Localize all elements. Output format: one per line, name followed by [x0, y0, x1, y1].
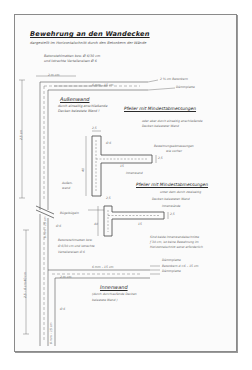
dimension-left-middle: 6 mm – 15 cm [44, 217, 47, 238]
left-note-line1: Betonstahlmatten bzw. [58, 239, 93, 242]
outer-wall-line2: Decken belastete Wand ! [58, 110, 100, 113]
pillar-2-line1: unter dem durch zweiseitig [160, 191, 201, 194]
pillar-1-height: 40 [82, 168, 85, 172]
left-note-line2: Ø 6/30 cm und lotrechte [58, 245, 95, 248]
dimension-top-inner: 6 mm – 15 cm [92, 84, 113, 87]
pillar-2-line2: Decken belasteten Wand [152, 198, 190, 201]
document-subtitle: dargestellt im Horizontalschnitt durch d… [30, 42, 146, 46]
inner-wall-heading: Innenwand [100, 285, 128, 290]
dimension-left-lower: 2,5 – 6 cm 40 cm [24, 272, 27, 298]
pillar-2-height: 40 [94, 223, 98, 226]
pillar-1-gap: 2,5 [158, 157, 163, 160]
pillar-1-rebar-note-2: wie vorher [166, 150, 182, 153]
note-daemmplatte-bottom-1: Dämmplatte [162, 259, 181, 262]
pillar-2-gap: 2,5 [170, 213, 175, 216]
note-daemmplatte-top: Dämmplatte [176, 86, 195, 89]
outer-wall-small-1: Außen- [62, 182, 73, 185]
pillar-1-heading: Pfeiler mit Mindestabmessungen [124, 107, 196, 111]
document-title: Bewehrung an den Wandecken [30, 31, 150, 38]
dimension-top-width: 2 m cm [48, 74, 59, 77]
pillar-1-inner-wall: Innenwand [126, 172, 143, 175]
pillar-1-rebar-note-1: Bewehrungsabmessungen [154, 145, 194, 148]
top-note-line2: und lotrechte Verteilereisen Ø 6 [44, 60, 97, 63]
pillar-1-arm: 15 [120, 165, 124, 168]
rebar-label-2: Ø 6 [56, 225, 61, 228]
pillar-2-note-3: Horizontalschnitt sonst erforderlich [150, 246, 203, 249]
pillar-1-width: 2,5 [92, 127, 97, 130]
note-betonkern-bottom: Betonkern d.=6 – 15 cm [162, 265, 199, 268]
pillar-1-line2: Decken belasteter Wand [142, 125, 179, 128]
dimension-left-upper: 2,5 cm [20, 130, 23, 140]
pillar-2-heading: Pfeiler mit Mindestabmessungen [136, 183, 208, 187]
pillar-2-note-1: Sind beide Innenwandabschnitte [150, 236, 199, 239]
note-daemmplatte-bottom-2: Dämmplatte [162, 270, 181, 273]
dimension-inner-top: 2 m cm [60, 276, 71, 279]
pillar-2-width: 2,5 [106, 197, 111, 200]
pillar-1-rebar: Ø 6 [106, 142, 111, 145]
outer-wall-small-2: wand [62, 187, 70, 190]
outer-wall-heading: Außenwand [60, 97, 89, 102]
outer-wall-line1: durch einseitig anschließende [58, 105, 107, 108]
dimension-bottom-inner: 6 mm – 15 cm [92, 266, 113, 269]
inner-wall-line2: belastete Wand ) [92, 299, 118, 302]
pillar-1-line1: oder aber durch einseitig anschließende [142, 120, 203, 123]
inner-wall-line1: (durch durchlaufende Decken [92, 293, 137, 296]
top-note-line1: Betonstahlmatten bzw. Ø 6/30 cm [44, 55, 100, 58]
pillar-2-note-2: ƒ 30 cm, ist keine Bewehrung im [150, 241, 199, 244]
technical-drawing-linework [0, 0, 252, 370]
note-betonkern-top: 2 ½ cm Betonkern [160, 78, 188, 81]
dimension-left-bottom: 6 mm – 15 cm [50, 323, 53, 344]
pillar-2-arm: 15 [138, 223, 142, 226]
pillar-2-inner-wall: Innenwände [162, 205, 180, 208]
pillar-2-stirrup-label: Bügelbügeln [60, 212, 79, 215]
rebar-label-3: Ø 6 [60, 308, 65, 311]
left-note-line3: Verteilereisen Ø 6 [58, 251, 85, 254]
